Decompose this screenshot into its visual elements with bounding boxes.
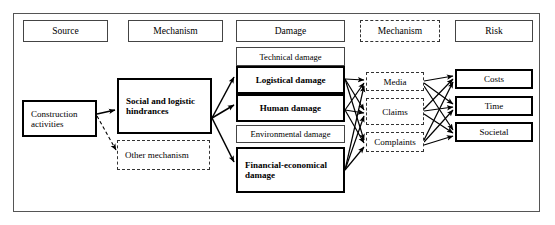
column-header-risk-label: Risk	[456, 26, 532, 36]
node-construction-activities-label: Construction activities	[24, 109, 95, 129]
node-complaints: Complaints	[366, 132, 424, 152]
node-costs-label: Costs	[457, 74, 531, 84]
node-financial-economical-damage-label: Financial-economical damage	[238, 160, 343, 180]
node-logistical-damage-label: Logistical damage	[238, 75, 343, 85]
node-other-mechanism-label: Other mechanism	[118, 150, 209, 160]
column-header-source: Source	[23, 20, 108, 42]
node-media: Media	[366, 72, 424, 91]
column-header-source-label: Source	[24, 26, 107, 36]
node-other-mechanism: Other mechanism	[117, 140, 210, 170]
node-construction-activities: Construction activities	[22, 100, 97, 137]
node-social-logistic-hindrances: Social and logistic hindrances	[117, 78, 212, 134]
column-header-mechanism-2-label: Mechanism	[361, 26, 439, 36]
node-technical-damage: Technical damage	[236, 47, 345, 66]
node-environmental-damage-label: Environmental damage	[237, 129, 344, 139]
node-societal: Societal	[455, 122, 533, 142]
node-financial-economical-damage: Financial-economical damage	[236, 147, 345, 193]
node-costs: Costs	[455, 69, 533, 89]
node-human-damage-label: Human damage	[238, 103, 343, 113]
risk-chain-diagram: Source Mechanism Damage Mechanism Risk	[0, 0, 555, 225]
node-social-logistic-hindrances-label: Social and logistic hindrances	[119, 96, 210, 116]
column-header-damage: Damage	[236, 20, 345, 42]
node-technical-damage-label: Technical damage	[237, 52, 344, 62]
column-header-damage-label: Damage	[237, 26, 344, 36]
node-media-label: Media	[367, 77, 423, 87]
column-header-mechanism-1: Mechanism	[128, 20, 223, 42]
node-logistical-damage: Logistical damage	[236, 66, 345, 94]
node-societal-label: Societal	[457, 127, 531, 137]
column-header-mechanism-2: Mechanism	[360, 20, 440, 42]
column-header-mechanism-1-label: Mechanism	[129, 26, 222, 36]
node-environmental-damage: Environmental damage	[236, 125, 345, 143]
node-human-damage: Human damage	[236, 94, 345, 122]
node-claims: Claims	[366, 98, 424, 125]
column-header-risk: Risk	[455, 20, 533, 42]
node-complaints-label: Complaints	[367, 137, 423, 147]
node-time: Time	[455, 96, 533, 116]
node-claims-label: Claims	[367, 107, 423, 117]
node-time-label: Time	[457, 101, 531, 111]
